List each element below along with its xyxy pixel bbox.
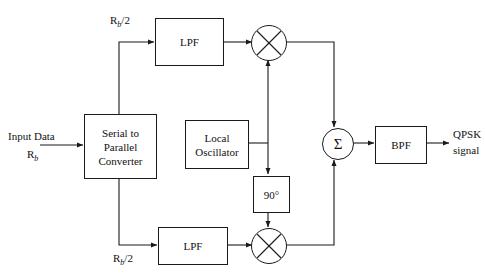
bpf-label: BPF [391, 138, 411, 152]
label-output-qpsk: QPSK [453, 128, 481, 141]
converter-label-line2: Parallel [104, 140, 138, 154]
wire-mixer-top-to-summer [285, 42, 334, 127]
label-output-signal: signal [453, 144, 479, 157]
wire-converter-to-lpf-top [119, 42, 154, 114]
lpf-top-label: LPF [180, 35, 199, 49]
wire-converter-to-lpf-bottom [119, 177, 157, 245]
lpf-bottom-label: LPF [184, 239, 203, 253]
mixer-top-icon [251, 25, 287, 61]
input-data-text: Input Data [8, 130, 55, 142]
block-phase-shifter-90: 90° [253, 176, 290, 213]
qpsk-modulator-diagram: Serial to Parallel Converter LPF LPF Loc… [0, 0, 485, 279]
input-rate-subscript: b [34, 154, 38, 163]
wire-mixer-bottom-to-summer [285, 160, 334, 245]
label-input-bit-rate: Rb [27, 148, 38, 165]
mixer-bottom-cross-icon [252, 229, 286, 263]
output-line1: QPSK [453, 128, 481, 140]
output-line2: signal [453, 144, 479, 156]
phase-shift-label: 90° [264, 188, 279, 202]
label-branch-rate-top: Rb/2 [110, 14, 130, 31]
oscillator-label-line1: Local [204, 131, 229, 145]
block-bpf: BPF [375, 126, 427, 164]
label-input-data: Input Data [8, 130, 55, 143]
branch-bottom-rate-divisor: /2 [124, 252, 133, 264]
block-lpf-top: LPF [155, 18, 224, 66]
label-branch-rate-bottom: Rb/2 [113, 252, 133, 269]
summer-node: Σ [322, 128, 354, 160]
block-serial-to-parallel-converter: Serial to Parallel Converter [84, 114, 157, 179]
summer-sigma-symbol: Σ [334, 136, 343, 153]
oscillator-label-line2: Oscillator [195, 145, 238, 159]
branch-top-rate-divisor: /2 [121, 14, 130, 26]
converter-label-line3: Converter [99, 154, 143, 168]
block-lpf-bottom: LPF [158, 227, 228, 265]
block-local-oscillator: Local Oscillator [185, 120, 249, 169]
mixer-bottom-icon [251, 228, 287, 264]
mixer-top-cross-icon [252, 26, 286, 60]
converter-label-line1: Serial to [102, 126, 139, 140]
